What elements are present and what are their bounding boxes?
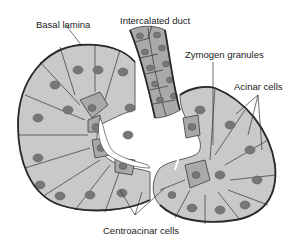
acinus-diagram: Basal lamina Intercalated duct Zymogen g… [0,0,295,243]
label-acinar-cells: Acinar cells [234,82,283,92]
label-centroacinar-cells: Centroacinar cells [103,226,179,236]
acinus-illustration [0,0,295,243]
label-basal-lamina: Basal lamina [36,20,90,30]
label-zymogen-granules: Zymogen granules [185,50,264,60]
label-intercalated-duct: Intercalated duct [120,16,190,26]
left-acinus [18,44,150,212]
intercalated-duct [130,26,180,118]
